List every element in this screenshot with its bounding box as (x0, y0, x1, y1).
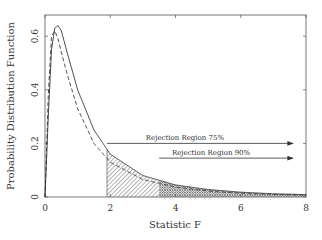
x-tick-label: 2 (107, 203, 113, 213)
curves (45, 26, 306, 198)
f-distribution-chart: 02468 00.20.40.6 Rejection Region 75%Rej… (0, 0, 322, 240)
solid-curve (45, 26, 306, 198)
y-axis: 00.20.40.6 (30, 29, 306, 200)
annotations: Rejection Region 75%Rejection Region 90% (107, 134, 293, 158)
x-tick-label: 6 (238, 203, 244, 213)
x-axis: 02468 (42, 15, 309, 213)
y-tick-label: 0.6 (30, 29, 40, 44)
y-tick-label: 0 (30, 194, 40, 200)
x-tick-label: 8 (303, 203, 309, 213)
y-axis-title: Probability Distribution Function (5, 22, 16, 190)
y-tick-label: 0.2 (30, 136, 40, 150)
y-tick-label: 0.4 (30, 82, 40, 97)
rejection-label: Rejection Region 75% (146, 134, 225, 142)
x-axis-title: Statistic F (149, 219, 201, 230)
x-tick-label: 0 (42, 203, 48, 213)
rejection-label: Rejection Region 90% (172, 149, 251, 157)
x-tick-label: 4 (173, 203, 179, 213)
dashed-curve (45, 31, 306, 197)
